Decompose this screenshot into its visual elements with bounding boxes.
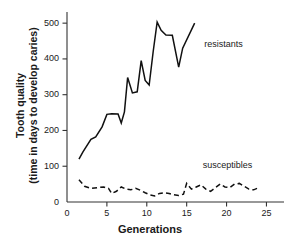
y-axis-tick-label: 300 xyxy=(30,90,59,99)
y-axis-title-line1: Tooth quality xyxy=(14,27,27,183)
y-axis-title: Tooth quality (time in days to develop c… xyxy=(0,0,52,210)
x-axis-tick-label: 15 xyxy=(172,209,202,218)
series-line-susceptibles xyxy=(79,180,259,196)
x-axis-tick-label: 25 xyxy=(251,209,281,218)
x-axis-tick-label: 20 xyxy=(212,209,242,218)
y-axis-tick-label: 500 xyxy=(30,19,59,28)
y-axis-tick-label: 200 xyxy=(30,126,59,135)
x-axis-tick-label: 10 xyxy=(132,209,162,218)
series-line-resistants xyxy=(79,22,195,159)
y-axis-tick-label: 400 xyxy=(30,54,59,63)
x-axis-tick-label: 0 xyxy=(52,209,82,218)
series-label-susceptibles: susceptibles xyxy=(203,161,253,170)
x-axis-tick-label: 5 xyxy=(92,209,122,218)
chart-figure: Tooth quality (time in days to develop c… xyxy=(0,0,291,250)
x-axis-title: Generations xyxy=(60,224,240,235)
y-axis-tick-label: 0 xyxy=(30,198,59,207)
series-label-resistants: resistants xyxy=(204,40,243,49)
y-axis-title-line2: (time in days to develop caries) xyxy=(26,27,39,183)
y-axis-tick-label: 100 xyxy=(30,162,59,171)
